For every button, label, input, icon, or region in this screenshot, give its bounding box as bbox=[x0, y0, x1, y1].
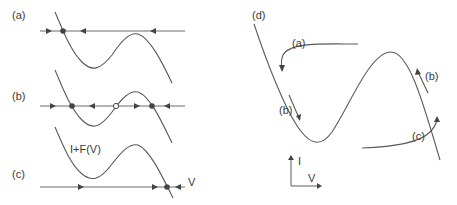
arrow-right-icon bbox=[46, 28, 52, 34]
v-axis-label: V bbox=[188, 176, 196, 188]
arrow-left-icon bbox=[89, 103, 95, 109]
stable-fixed-point-icon bbox=[69, 103, 75, 109]
nullcline-a bbox=[55, 12, 172, 83]
arrow-left-icon bbox=[80, 28, 86, 34]
stable-fixed-point-icon bbox=[60, 28, 66, 34]
panel-b-label: (b) bbox=[12, 90, 25, 102]
stable-fixed-point-icon bbox=[164, 184, 170, 190]
arrow-up-icon bbox=[415, 68, 421, 75]
arrow-right-icon bbox=[50, 103, 56, 109]
phase-diagram: (a) (b) (c) I+F(V) V (d) bbox=[0, 0, 457, 205]
arrow-up-icon bbox=[434, 116, 440, 122]
panel-c: (c) I+F(V) V bbox=[12, 127, 196, 198]
v-axis-label: V bbox=[308, 172, 316, 184]
arrow-right-icon bbox=[152, 184, 158, 190]
panel-b: (b) bbox=[12, 70, 185, 143]
trajectory-b-left-label: (b) bbox=[279, 104, 292, 116]
arrow-left-icon bbox=[175, 184, 181, 190]
unstable-fixed-point-icon bbox=[113, 103, 118, 108]
trajectory-b-right-label: (b) bbox=[425, 70, 438, 82]
curve-label: I+F(V) bbox=[70, 143, 101, 155]
panel-d-label: (d) bbox=[252, 9, 265, 21]
arrow-down-icon bbox=[279, 65, 285, 72]
arrow-left-icon bbox=[164, 103, 170, 109]
panel-c-label: (c) bbox=[12, 168, 25, 180]
trajectory-c-label: (c) bbox=[412, 130, 425, 142]
i-axis-label: I bbox=[298, 155, 301, 167]
arrow-right-icon bbox=[317, 183, 322, 189]
stable-fixed-point-icon bbox=[149, 103, 155, 109]
arrow-right-icon bbox=[78, 184, 84, 190]
trajectory-c bbox=[362, 120, 437, 148]
arrow-up-icon bbox=[288, 155, 294, 160]
arrow-left-icon bbox=[150, 28, 156, 34]
trajectory-a-label: (a) bbox=[292, 37, 305, 49]
arrow-down-icon bbox=[296, 114, 301, 121]
panel-a-label: (a) bbox=[12, 9, 25, 21]
panel-d: (d) (a) (b) (b) (c) I V bbox=[252, 9, 440, 189]
panel-a: (a) bbox=[12, 9, 185, 83]
arrow-right-icon bbox=[134, 103, 140, 109]
